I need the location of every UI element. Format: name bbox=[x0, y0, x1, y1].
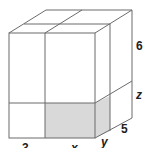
shaded-front-block bbox=[45, 103, 95, 138]
label-height-top: 6 bbox=[136, 39, 143, 53]
top-width-divider bbox=[45, 10, 82, 33]
label-height-bottom: z bbox=[135, 88, 142, 102]
right-height-divider bbox=[95, 81, 132, 103]
top-left-edge bbox=[9, 10, 46, 33]
top-right-edge bbox=[95, 10, 132, 33]
label-front-left-width: 3 bbox=[22, 141, 29, 148]
label-front-right-width: x bbox=[70, 141, 79, 148]
label-depth-back: 5 bbox=[121, 122, 128, 136]
prism-diagram: 3 x 6 z 5 y bbox=[0, 0, 144, 148]
shaded-side-block bbox=[95, 96, 110, 138]
label-depth-front: y bbox=[100, 135, 109, 148]
